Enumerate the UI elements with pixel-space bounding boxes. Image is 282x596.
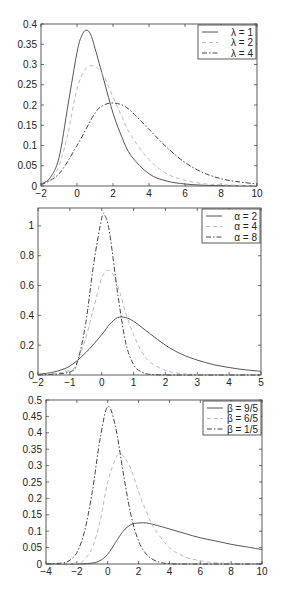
y-tick-label: 0.4: [20, 310, 34, 321]
y-tick-label: 0.8: [20, 250, 34, 261]
chart-beta: −4−2024681000.050.10.150.20.250.30.350.4…: [23, 395, 268, 578]
x-tick-label: 2: [136, 566, 142, 577]
y-tick-label: 0.4: [23, 19, 37, 30]
y-tick-label: 0.1: [23, 140, 37, 151]
chart-alpha: −2−101234500.20.40.60.81α = 2α = 4α = 8: [20, 208, 264, 388]
x-tick-label: 4: [167, 566, 173, 577]
y-tick-label: 0.35: [18, 39, 38, 50]
x-tick-label: 6: [198, 566, 204, 577]
x-tick-label: 5: [258, 377, 264, 388]
y-tick-label: 0.15: [23, 509, 43, 520]
series-line-0: [38, 317, 261, 374]
legend-label: α = 2: [234, 211, 257, 222]
y-tick-label: 1: [28, 220, 34, 231]
x-tick-label: 3: [195, 377, 201, 388]
series-line-1: [38, 270, 261, 375]
y-tick-label: 0.25: [18, 79, 38, 90]
x-tick-label: 2: [163, 377, 169, 388]
x-tick-label: −2: [32, 377, 44, 388]
y-tick-label: 0.3: [23, 59, 37, 70]
x-tick-label: −2: [71, 566, 83, 577]
x-tick-label: 0: [74, 188, 80, 199]
x-tick-label: 4: [226, 377, 232, 388]
legend-label: β = 6/5: [227, 413, 258, 424]
x-tick-label: 1: [131, 377, 137, 388]
x-tick-label: −2: [35, 188, 47, 199]
x-tick-label: 8: [228, 566, 234, 577]
legend-label: β = 1/5: [227, 424, 258, 435]
y-tick-label: 0.15: [18, 120, 38, 131]
x-tick-label: 10: [256, 566, 268, 577]
y-tick-label: 0.25: [23, 477, 43, 488]
legend: λ = 1λ = 2λ = 4: [198, 25, 256, 59]
series-line-0: [46, 523, 262, 564]
chart-lambda: −2024681000.050.10.150.20.250.30.350.4λ …: [18, 19, 263, 200]
y-tick-label: 0.1: [28, 526, 42, 537]
y-tick-label: 0.2: [20, 340, 34, 351]
y-tick-label: 0.45: [23, 411, 43, 422]
x-tick-label: 0: [105, 566, 111, 577]
series-line-1: [41, 66, 257, 186]
y-tick-label: 0.2: [23, 100, 37, 111]
x-tick-label: 10: [251, 188, 263, 199]
legend: β = 9/5β = 6/5β = 1/5: [203, 401, 261, 435]
legend: α = 2α = 4α = 8: [202, 209, 260, 243]
legend-label: α = 8: [234, 232, 257, 243]
x-tick-label: 4: [146, 188, 152, 199]
y-tick-label: 0.35: [23, 444, 43, 455]
x-tick-label: 0: [99, 377, 105, 388]
y-tick-label: 0.05: [23, 542, 43, 553]
y-tick-label: 0: [36, 559, 42, 570]
legend-label: α = 4: [234, 221, 257, 232]
x-tick-label: 8: [218, 188, 224, 199]
y-tick-label: 0.4: [28, 427, 42, 438]
legend-label: β = 9/5: [227, 403, 258, 414]
series-line-1: [46, 454, 262, 564]
x-tick-label: 2: [110, 188, 116, 199]
x-tick-label: −1: [64, 377, 76, 388]
legend-label: λ = 1: [231, 27, 253, 38]
y-tick-label: 0.2: [28, 493, 42, 504]
series-line-2: [41, 103, 257, 185]
legend-label: λ = 2: [231, 37, 253, 48]
y-tick-label: 0: [28, 370, 34, 381]
y-tick-label: 0: [31, 181, 37, 192]
x-tick-label: 6: [182, 188, 188, 199]
figure: −2024681000.050.10.150.20.250.30.350.4λ …: [0, 0, 282, 596]
x-tick-label: −4: [40, 566, 52, 577]
y-tick-label: 0.5: [28, 395, 42, 406]
y-tick-label: 0.05: [18, 160, 38, 171]
y-tick-label: 0.6: [20, 280, 34, 291]
legend-label: λ = 4: [231, 48, 253, 59]
y-tick-label: 0.3: [28, 460, 42, 471]
